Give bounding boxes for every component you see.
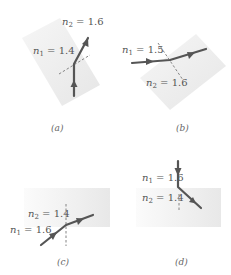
caption-d: (d) [175,257,188,267]
panel-c: n2 = 1.4 n1 = 1.6 (c) [10,188,110,267]
caption-c: (c) [57,257,70,267]
n2-label: n2 = 1.6 [62,16,104,29]
medium-region [22,18,100,106]
panel-b: n1 = 1.5 n2 = 1.6 (b) [122,34,226,133]
refraction-diagram: n2 = 1.6 n1 = 1.4 (a) n1 = 1.5 n2 = 1.6 … [0,0,231,275]
caption-b: (b) [176,123,189,133]
caption-a: (a) [51,123,64,133]
panel-a: n2 = 1.6 n1 = 1.4 (a) [22,16,104,133]
n1-label: n1 = 1.5 [122,44,164,57]
panel-d: n1 = 1.6 n2 = 1.4 (d) [136,161,221,267]
arrow-head-icon [146,58,154,65]
n1-label: n1 = 1.6 [10,224,52,237]
